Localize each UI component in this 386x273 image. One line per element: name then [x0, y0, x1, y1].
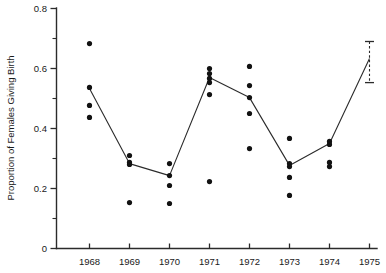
data-point — [207, 80, 212, 85]
x-tick-label-1970: 1970 — [159, 256, 180, 267]
data-point — [127, 200, 132, 205]
data-point — [167, 201, 172, 206]
data-point — [167, 183, 172, 188]
y-tick-label-0.4: 0.4 — [34, 123, 47, 134]
y-tick-label-0.6: 0.6 — [34, 63, 47, 74]
y-axis-title: Proportion of Females Giving Birth — [5, 55, 16, 200]
error-bar-group — [365, 42, 374, 83]
chart-figure: 0.8 0.6 0.4 0.2 0 Proportion of Females … — [0, 0, 386, 273]
data-point — [287, 175, 292, 180]
data-point — [207, 179, 212, 184]
data-point — [127, 153, 132, 158]
data-point — [87, 41, 92, 46]
data-point — [247, 146, 252, 151]
mean-trend-line — [90, 59, 370, 176]
scatter-plot-canvas: 0.8 0.6 0.4 0.2 0 Proportion of Females … — [0, 0, 386, 273]
data-point — [287, 193, 292, 198]
x-tick-label-1968: 1968 — [79, 256, 100, 267]
data-point-group — [87, 41, 332, 206]
y-axis-major-ticks — [51, 9, 57, 249]
data-point — [247, 95, 252, 100]
data-point — [327, 164, 332, 169]
data-point — [247, 111, 252, 116]
x-tick-label-1971: 1971 — [199, 256, 220, 267]
data-point — [167, 173, 172, 178]
y-tick-label-0.8: 0.8 — [34, 3, 47, 14]
mean-trend-polyline — [90, 59, 370, 176]
x-axis-ticks — [90, 244, 370, 249]
data-point — [287, 136, 292, 141]
data-point — [327, 142, 332, 147]
x-tick-label-1973: 1973 — [279, 256, 300, 267]
x-tick-label-1969: 1969 — [119, 256, 140, 267]
y-tick-label-0: 0 — [42, 243, 47, 254]
data-point — [207, 66, 212, 71]
data-point — [127, 162, 132, 167]
data-point — [167, 161, 172, 166]
data-point — [87, 85, 92, 90]
x-tick-label-1974: 1974 — [319, 256, 340, 267]
data-point — [87, 115, 92, 120]
x-tick-label-1972: 1972 — [239, 256, 260, 267]
data-point — [87, 103, 92, 108]
data-point — [247, 64, 252, 69]
x-tick-label-1975: 1975 — [359, 256, 380, 267]
data-point — [247, 83, 252, 88]
data-point — [207, 71, 212, 76]
data-point — [207, 92, 212, 97]
data-point — [287, 164, 292, 169]
y-tick-label-0.2: 0.2 — [34, 183, 47, 194]
